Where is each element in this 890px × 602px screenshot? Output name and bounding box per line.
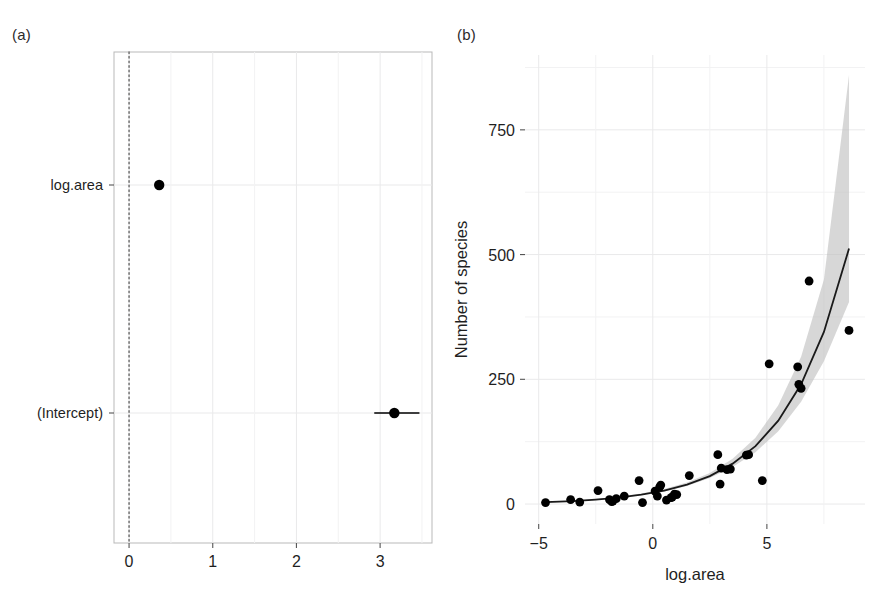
panel-b-xtick-label: −5: [530, 535, 548, 552]
panel-a-estimate-point: [389, 408, 399, 418]
panel-b-data-point: [620, 492, 629, 501]
panel-a-xtick-label: 3: [376, 553, 385, 570]
panel-b-xtick-label: 5: [762, 535, 771, 552]
panel-b-data-point: [726, 465, 735, 474]
panel-b-ytick-label: 500: [488, 247, 515, 264]
panel-b-x-axis-title: log.area: [665, 565, 725, 583]
panel-b-data-point: [797, 384, 806, 393]
panel-b-data-point: [541, 498, 550, 507]
panel-b-data-point: [845, 326, 854, 335]
panel-b-data-point: [765, 359, 774, 368]
panel-b-background: [525, 55, 865, 524]
panel-b-data-point: [635, 476, 644, 485]
panel-a-xtick-label: 0: [125, 553, 134, 570]
panel-b-ytick-label: 0: [506, 496, 515, 513]
panel-b-data-point: [744, 450, 753, 459]
panel-a-coefficient-plot: 0123(Intercept)log.area: [0, 0, 445, 602]
figure-container: (a) (b) 0123(Intercept)log.area −5050250…: [0, 0, 890, 602]
panel-b-data-point: [758, 476, 767, 485]
panel-a-category-label: (Intercept): [37, 405, 103, 421]
panel-b-data-point: [638, 498, 647, 507]
panel-b-data-point: [713, 450, 722, 459]
panel-b-ytick-label: 750: [488, 122, 515, 139]
panel-b-species-area-plot: −5050250500750log.areaNumber of species: [445, 0, 890, 602]
panel-b-data-point: [716, 480, 725, 489]
panel-b-data-point: [672, 490, 681, 499]
panel-a-xtick-label: 2: [292, 553, 301, 570]
panel-a-category-label: log.area: [51, 177, 104, 193]
panel-b-xtick-label: 0: [648, 535, 657, 552]
panel-a-xtick-label: 1: [208, 553, 217, 570]
panel-b-data-point: [594, 486, 603, 495]
panel-a-frame: [114, 52, 432, 543]
panel-a-estimate-point: [154, 180, 164, 190]
panel-b-data-point: [575, 498, 584, 507]
panel-b-data-point: [685, 471, 694, 480]
panel-b-data-point: [653, 492, 662, 501]
panel-b-data-point: [793, 362, 802, 371]
panel-b-data-point: [566, 495, 575, 504]
panel-b-data-point: [805, 277, 814, 286]
panel-b-y-axis-title: Number of species: [452, 221, 470, 359]
panel-b-data-point: [612, 494, 621, 503]
panel-b-data-point: [656, 481, 665, 490]
panel-b-ytick-label: 250: [488, 371, 515, 388]
